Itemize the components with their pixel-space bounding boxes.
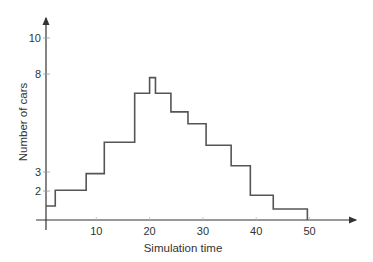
step-chart: 1020304050 23810 Simulation time Number … xyxy=(0,0,373,262)
x-tick-label: 50 xyxy=(303,225,315,237)
y-axis-label: Number of cars xyxy=(17,82,29,161)
step-line xyxy=(46,78,307,220)
y-tick-label: 3 xyxy=(35,166,41,178)
x-tick-label: 30 xyxy=(197,225,209,237)
y-tick-label: 10 xyxy=(29,32,41,44)
y-tick-label: 8 xyxy=(35,68,41,80)
x-tick-label: 20 xyxy=(143,225,155,237)
x-axis-label: Simulation time xyxy=(144,242,223,254)
y-tick-label: 2 xyxy=(35,185,41,197)
y-ticks: 23810 xyxy=(29,32,50,197)
x-tick-label: 10 xyxy=(90,225,102,237)
x-tick-label: 40 xyxy=(250,225,262,237)
